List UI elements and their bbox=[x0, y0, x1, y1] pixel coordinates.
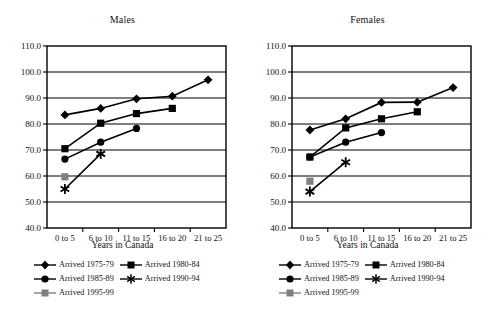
legend-label: Arrived 1995-99 bbox=[304, 287, 359, 299]
legend-row: Arrived 1995-99 bbox=[245, 286, 490, 300]
legend-item-arrived-1975-79: Arrived 1975-79 bbox=[279, 259, 359, 271]
legend-males: Arrived 1975-79 Arrived 1980-84 bbox=[0, 258, 245, 300]
asterisk-marker-icon bbox=[120, 273, 142, 285]
x-axis-title-females: Years in Canada bbox=[245, 240, 490, 250]
svg-text:70.0: 70.0 bbox=[270, 145, 286, 155]
legend-label: Arrived 1995-99 bbox=[59, 287, 114, 299]
legend-row: Arrived 1985-89 Arrived 1990 bbox=[245, 272, 490, 286]
legend-label: Arrived 1975-79 bbox=[304, 259, 359, 271]
gray-square-marker-icon bbox=[34, 287, 56, 299]
asterisk-marker-icon bbox=[365, 273, 387, 285]
legend-item-arrived-1995-99: Arrived 1995-99 bbox=[34, 287, 114, 299]
svg-text:80.0: 80.0 bbox=[270, 119, 286, 129]
legend-label: Arrived 1990-94 bbox=[390, 273, 445, 285]
gray-square-marker-icon bbox=[279, 287, 301, 299]
plot-svg-females: 40.050.060.070.080.090.0100.0110.00 to 5… bbox=[245, 0, 490, 260]
diamond-marker-icon bbox=[279, 259, 301, 271]
legend-label: Arrived 1980-84 bbox=[390, 259, 445, 271]
legend-females: Arrived 1975-79 Arrived 1980-84 bbox=[245, 258, 490, 300]
legend-item-arrived-1980-84: Arrived 1980-84 bbox=[365, 259, 445, 271]
legend-item-arrived-1990-94: Arrived 1990-94 bbox=[365, 273, 445, 285]
chart-panel-females: Females 40.050.060.070.080.090.0100.0110… bbox=[245, 0, 490, 322]
diamond-marker-icon bbox=[34, 259, 56, 271]
legend-item-arrived-1985-89: Arrived 1985-89 bbox=[34, 273, 114, 285]
legend-label: Arrived 1985-89 bbox=[304, 273, 359, 285]
svg-text:50.0: 50.0 bbox=[25, 197, 41, 207]
plot-area-males: 40.050.060.070.080.090.0100.0110.00 to 5… bbox=[0, 0, 245, 260]
svg-text:80.0: 80.0 bbox=[25, 119, 41, 129]
legend-label: Arrived 1975-79 bbox=[59, 259, 114, 271]
svg-text:60.0: 60.0 bbox=[25, 171, 41, 181]
square-marker-icon bbox=[120, 259, 142, 271]
chart-panel-males: Males 40.050.060.070.080.090.0100.0110.0… bbox=[0, 0, 245, 322]
svg-text:100.0: 100.0 bbox=[21, 67, 42, 77]
legend-row: Arrived 1985-89 Arrived 1990 bbox=[0, 272, 245, 286]
legend-label: Arrived 1990-94 bbox=[145, 273, 200, 285]
legend-row: Arrived 1975-79 Arrived 1980-84 bbox=[0, 258, 245, 272]
legend-row: Arrived 1975-79 Arrived 1980-84 bbox=[245, 258, 490, 272]
legend-item-arrived-1985-89: Arrived 1985-89 bbox=[279, 273, 359, 285]
svg-text:100.0: 100.0 bbox=[266, 67, 287, 77]
svg-text:60.0: 60.0 bbox=[270, 171, 286, 181]
circle-marker-icon bbox=[279, 273, 301, 285]
x-axis-title-males: Years in Canada bbox=[0, 240, 245, 250]
svg-text:90.0: 90.0 bbox=[270, 93, 286, 103]
svg-text:40.0: 40.0 bbox=[270, 223, 286, 233]
square-marker-icon bbox=[365, 259, 387, 271]
svg-text:50.0: 50.0 bbox=[270, 197, 286, 207]
legend-label: Arrived 1985-89 bbox=[59, 273, 114, 285]
plot-area-females: 40.050.060.070.080.090.0100.0110.00 to 5… bbox=[245, 0, 490, 260]
plot-svg-males: 40.050.060.070.080.090.0100.0110.00 to 5… bbox=[0, 0, 245, 260]
svg-text:110.0: 110.0 bbox=[266, 41, 286, 51]
svg-text:90.0: 90.0 bbox=[25, 93, 41, 103]
legend-item-arrived-1975-79: Arrived 1975-79 bbox=[34, 259, 114, 271]
circle-marker-icon bbox=[34, 273, 56, 285]
legend-item-arrived-1980-84: Arrived 1980-84 bbox=[120, 259, 200, 271]
legend-row: Arrived 1995-99 bbox=[0, 286, 245, 300]
legend-item-arrived-1995-99: Arrived 1995-99 bbox=[279, 287, 359, 299]
svg-text:40.0: 40.0 bbox=[25, 223, 41, 233]
legend-item-arrived-1990-94: Arrived 1990-94 bbox=[120, 273, 200, 285]
svg-text:110.0: 110.0 bbox=[21, 41, 41, 51]
svg-text:70.0: 70.0 bbox=[25, 145, 41, 155]
legend-label: Arrived 1980-84 bbox=[145, 259, 200, 271]
figure-root: Males 40.050.060.070.080.090.0100.0110.0… bbox=[0, 0, 490, 322]
